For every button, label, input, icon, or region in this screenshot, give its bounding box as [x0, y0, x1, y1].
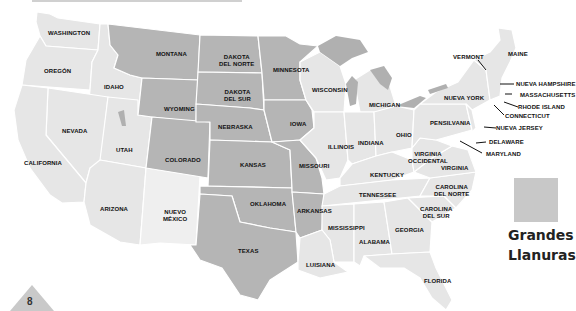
label-michigan: MICHIGAN — [369, 102, 400, 109]
label-washington: WASHINGTON — [48, 30, 90, 37]
label-connecticut: CONNECTICUT — [505, 113, 550, 120]
state-new-mexico — [140, 168, 200, 245]
label-pennsylvania: PENSILVANIA — [430, 120, 471, 127]
label-south-carolina: CAROLINADEL SUR — [420, 206, 452, 220]
leader-rhode-island — [504, 102, 518, 107]
label-indiana: INDIANA — [358, 140, 384, 147]
top-text-remnant — [32, 0, 242, 2]
legend-swatch-great-plains — [514, 178, 558, 222]
label-vermont: VERMONT — [453, 54, 484, 61]
label-minnesota: MINNESOTA — [273, 67, 309, 74]
page-number: 8 — [27, 296, 33, 307]
label-missouri: MISSOURI — [299, 163, 329, 170]
label-arkansas: ARKANSAS — [297, 208, 332, 215]
label-iowa: IOWA — [290, 121, 306, 128]
label-massachusetts: MASSACHUSETTS — [520, 92, 575, 99]
label-georgia: GEORGIA — [395, 227, 424, 234]
leader-delaware — [476, 142, 486, 143]
label-illinois: ILLINOIS — [328, 144, 354, 151]
label-arizona: ARIZONA — [100, 206, 128, 213]
label-delaware: DELAWARE — [489, 139, 524, 146]
label-utah: UTAH — [116, 147, 133, 154]
label-nevada: NEVADA — [62, 128, 88, 135]
label-north-carolina: CAROLINADEL NORTE — [434, 184, 469, 198]
label-new-york: NUEVA YORK — [444, 95, 484, 102]
label-mississippi: MISSISSIPPI — [328, 225, 365, 232]
label-colorado: COLORADO — [165, 157, 201, 164]
label-new-hampshire: NUEVA HAMPSHIRE — [516, 81, 576, 88]
label-south-dakota: DAKOTADEL SUR — [224, 89, 251, 103]
state-ohio — [374, 106, 414, 156]
label-north-dakota: DAKOTADEL NORTE — [219, 54, 254, 68]
label-california: CALIFORNIA — [24, 160, 62, 167]
label-wisconsin: WISCONSIN — [312, 87, 348, 94]
leader-connecticut — [494, 105, 504, 115]
label-new-jersey: NUEVA JERSEY — [496, 125, 543, 132]
label-west-virginia: VIRGINIAOCCIDENTAL — [408, 151, 448, 165]
label-kansas: KANSAS — [240, 162, 266, 169]
label-montana: MONTANA — [156, 51, 187, 58]
label-florida: FLORIDA — [424, 278, 451, 285]
label-louisiana: LUISIANA — [306, 262, 335, 269]
leader-new-jersey — [484, 127, 496, 128]
label-maine: MAINE — [508, 51, 528, 58]
state-indiana — [344, 112, 376, 164]
state-wyoming — [138, 78, 198, 122]
label-rhode-island: RHODE ISLAND — [518, 104, 565, 111]
label-tennessee: TENNESSEE — [359, 192, 396, 199]
label-wyoming: WYOMING — [164, 106, 195, 113]
label-virginia: VIRGINIA — [441, 165, 468, 172]
label-new-mexico: NUEVOMÉXICO — [163, 209, 187, 223]
label-texas: TEXAS — [238, 248, 259, 255]
label-alabama: ALABAMA — [359, 239, 390, 246]
label-oregon: OREGÓN — [44, 68, 71, 75]
state-arizona — [84, 160, 146, 245]
lake-michigan — [346, 76, 358, 106]
label-kentucky: KENTUCKY — [370, 172, 404, 179]
state-new-york — [420, 60, 490, 110]
label-nebraska: NEBRASKA — [218, 124, 253, 131]
label-ohio: OHIO — [396, 132, 412, 139]
label-oklahoma: OKLAHOMA — [250, 201, 286, 208]
legend-label-great-plains: GrandesLlanuras — [508, 225, 576, 265]
state-colorado — [146, 117, 210, 178]
label-idaho: IDAHO — [104, 84, 124, 91]
label-maryland: MARYLAND — [486, 151, 521, 158]
